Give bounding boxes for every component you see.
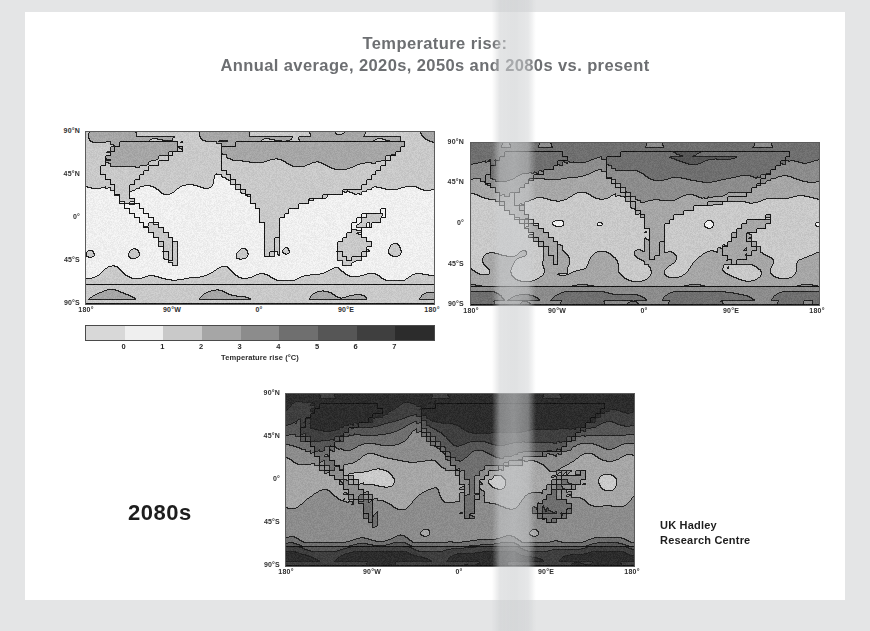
colorbar-swatch-5 (279, 326, 318, 340)
colorbar-tick-2: 2 (191, 342, 211, 351)
title-line-2: Annual average, 2020s, 2050s and 2080s v… (0, 54, 870, 76)
colorbar-gradient (85, 325, 435, 341)
map-2080s-xtick-0: 180° (270, 568, 302, 575)
colorbar-swatch-6 (318, 326, 357, 340)
title-line-1: Temperature rise: (0, 32, 870, 54)
map-frame-2080s (285, 393, 635, 567)
map-2080s-ytick-1: 45°N (246, 432, 280, 439)
colorbar-tick-7: 7 (384, 342, 404, 351)
colorbar-swatch-8 (395, 326, 434, 340)
colorbar-tick-4: 4 (268, 342, 288, 351)
credit-line-2: Research Centre (660, 533, 750, 548)
colorbar-swatch-2 (163, 326, 202, 340)
credit-line-1: UK Hadley (660, 518, 750, 533)
map-2080s-ytick-3: 45°S (246, 518, 280, 525)
colorbar-tick-3: 3 (230, 342, 250, 351)
credit-attribution: UK Hadley Research Centre (660, 518, 750, 548)
colorbar-swatch-3 (202, 326, 241, 340)
colorbar-tick-1: 1 (152, 342, 172, 351)
colorbar-tick-0: 0 (114, 342, 134, 351)
decade-label-2080s: 2080s (128, 500, 192, 526)
map-2080s-ytick-0: 90°N (246, 389, 280, 396)
map-2080s-xtick-4: 180° (616, 568, 648, 575)
colorbar-tick-5: 5 (307, 342, 327, 351)
map-2080s-ytick-4: 90°S (246, 561, 280, 568)
colorbar-swatch-7 (357, 326, 396, 340)
map-plot-2080s (286, 394, 634, 566)
page-title: Temperature rise: Annual average, 2020s,… (0, 32, 870, 76)
colorbar-swatch-0 (86, 326, 125, 340)
colorbar-swatch-4 (241, 326, 280, 340)
map-2080s-xtick-3: 90°E (530, 568, 562, 575)
colorbar-tick-6: 6 (346, 342, 366, 351)
slide-root: Temperature rise: Annual average, 2020s,… (0, 0, 870, 631)
colorbar-caption: Temperature rise (°C) (155, 353, 365, 362)
map-2080s-xtick-1: 90°W (356, 568, 388, 575)
map-2080s-xtick-2: 0° (443, 568, 475, 575)
map-2080s-ytick-2: 0° (246, 475, 280, 482)
colorbar-swatch-1 (125, 326, 164, 340)
